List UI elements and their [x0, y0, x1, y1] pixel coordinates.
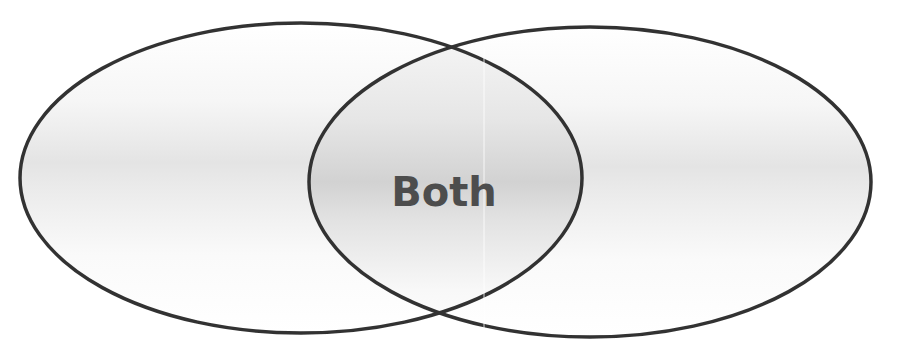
intersection-label: Both	[388, 168, 500, 216]
